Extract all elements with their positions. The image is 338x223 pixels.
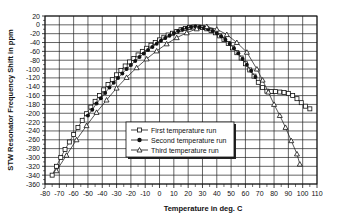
y-tick-label: 20 (32, 13, 40, 20)
x-tick-label: 60 (242, 190, 250, 197)
x-tick-label: -30 (112, 190, 122, 197)
y-axis-label: STW Resonator Frequency Shift in ppm (6, 29, 15, 171)
x-tick-label: 30 (199, 190, 207, 197)
y-tick-label: -320 (26, 163, 40, 170)
y-tick-label: -40 (30, 39, 40, 46)
y-tick-label: -200 (26, 110, 40, 117)
x-tick-label: 10 (170, 190, 178, 197)
legend: First temperature run Second temperature… (126, 122, 236, 159)
y-tick-label: 0 (36, 21, 40, 28)
x-tick-label: 20 (184, 190, 192, 197)
x-tick-label: -60 (69, 190, 79, 197)
filled-circle-marker-icon (137, 138, 141, 142)
x-tick-label: 70 (256, 190, 264, 197)
y-tick-label: -240 (26, 127, 40, 134)
x-tick-label: 110 (311, 190, 322, 197)
y-axis-ticks: 200-20-40-60-80-100-120-140-160-180-200-… (26, 13, 45, 189)
legend-label: Second temperature run (151, 137, 227, 145)
x-tick-label: -50 (83, 190, 93, 197)
x-tick-label: -10 (140, 190, 150, 197)
x-tick-label: 80 (270, 190, 278, 197)
y-tick-label: -220 (26, 119, 40, 126)
x-tick-label: -70 (54, 190, 64, 197)
legend-label: Third temperature run (151, 147, 219, 155)
y-tick-label: -260 (26, 136, 40, 143)
x-tick-label: 50 (227, 190, 235, 197)
y-tick-label: -280 (26, 145, 40, 152)
y-tick-label: -120 (26, 74, 40, 81)
x-axis-label: Temperature in deg. C (164, 204, 243, 213)
y-tick-label: -140 (26, 83, 40, 90)
x-tick-label: 100 (297, 190, 309, 197)
open-square-marker-icon (138, 128, 142, 132)
x-tick-label: -40 (97, 190, 107, 197)
y-tick-label: -20 (30, 30, 40, 37)
y-tick-label: -60 (30, 48, 40, 55)
x-axis-ticks: -80-70-60-50-40-30-20-100102030405060708… (40, 184, 323, 197)
y-tick-label: -100 (26, 66, 40, 73)
x-tick-label: -80 (40, 190, 50, 197)
x-tick-label: 90 (284, 190, 292, 197)
y-tick-label: -80 (30, 57, 40, 64)
legend-label: First temperature run (151, 127, 216, 135)
x-tick-label: -20 (126, 190, 136, 197)
y-tick-label: -340 (26, 172, 40, 179)
y-tick-label: -180 (26, 101, 40, 108)
chart: 200-20-40-60-80-100-120-140-160-180-200-… (0, 0, 338, 223)
x-tick-label: 0 (158, 190, 162, 197)
x-tick-label: 40 (213, 190, 221, 197)
y-tick-label: -300 (26, 154, 40, 161)
y-tick-label: -360 (26, 181, 40, 188)
y-tick-label: -160 (26, 92, 40, 99)
